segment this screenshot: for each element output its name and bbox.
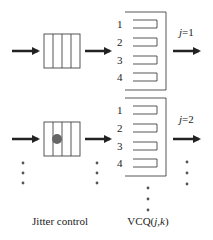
- output-label: j=2: [177, 113, 194, 125]
- output-label: j=1: [177, 26, 194, 38]
- queue-number: 3: [117, 140, 123, 152]
- queue-number: 3: [117, 54, 123, 66]
- vcq-queue-2: 2: [117, 122, 157, 134]
- ellipsis-middle: [96, 162, 99, 185]
- vcq-queue-1: 1: [117, 104, 157, 116]
- queue-number: 1: [117, 104, 123, 116]
- queue-number: 4: [117, 157, 123, 169]
- jitter-control-buffer: [44, 122, 80, 156]
- queue-number: 2: [117, 122, 123, 134]
- row-1: 1 2 3 4 j=1: [12, 12, 199, 90]
- vcq-queue-4: 4: [117, 157, 157, 169]
- vcq-queue-1: 1: [117, 18, 157, 30]
- ellipsis-input: [22, 162, 25, 185]
- row-2: 1 2 3 4 j=2: [12, 98, 199, 176]
- ellipsis-output: [186, 161, 189, 186]
- vcq-queue-3: 3: [117, 54, 157, 66]
- queue-number: 1: [117, 18, 123, 30]
- queue-number: 2: [117, 36, 123, 48]
- vcq-queue-2: 2: [117, 36, 157, 48]
- queue-number: 4: [117, 71, 123, 83]
- vcq-caption: VCQ(j,k): [127, 215, 169, 228]
- vcq-queue-3: 3: [117, 140, 157, 152]
- vcq-block: 1 2 3 4: [117, 12, 166, 90]
- jitter-vcq-diagram: 1 2 3 4 j=1: [0, 0, 213, 240]
- packet-dot: [52, 134, 62, 144]
- ellipsis-vcq: [147, 187, 150, 212]
- jitter-control-buffer: [44, 34, 80, 68]
- vcq-queue-4: 4: [117, 71, 157, 83]
- vcq-block: 1 2 3 4: [117, 98, 166, 176]
- jitter-control-caption: Jitter control: [32, 215, 88, 227]
